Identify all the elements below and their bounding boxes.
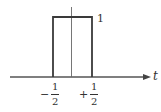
right-edge-denominator: 2 [91, 97, 97, 107]
right-edge-label: + 1 2 [79, 82, 98, 107]
left-edge-numerator: 1 [52, 82, 58, 92]
left-edge-denominator: 2 [52, 97, 58, 107]
right-edge-sign: + [79, 88, 88, 101]
t-axis-arrowhead-icon [143, 74, 151, 80]
right-edge-numerator: 1 [91, 82, 97, 92]
rect-pulse-diagram: 1 t − 1 2 + 1 2 [0, 0, 161, 112]
pulse-outline [53, 17, 92, 77]
right-edge-fraction-bar [90, 94, 98, 95]
right-edge-fraction: 1 2 [90, 82, 98, 107]
left-edge-label: − 1 2 [40, 82, 59, 107]
height-label: 1 [97, 13, 104, 24]
left-edge-sign: − [40, 88, 49, 101]
left-edge-fraction-bar [51, 94, 59, 95]
t-axis-label: t [153, 70, 158, 82]
left-edge-fraction: 1 2 [51, 82, 59, 107]
